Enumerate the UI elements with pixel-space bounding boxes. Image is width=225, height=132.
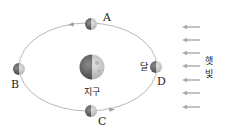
moon-position-d xyxy=(150,61,162,73)
arrow-left-icon xyxy=(182,78,200,82)
moon-position-c xyxy=(85,105,97,117)
arrow-left-icon xyxy=(182,25,200,29)
moon-label: 달 xyxy=(140,61,148,72)
sunlight-label-1: 햇 xyxy=(205,55,213,66)
moon-position-a xyxy=(85,18,97,30)
earth-label: 지구 xyxy=(84,87,100,97)
moon-position-b xyxy=(13,63,25,75)
position-label-c: C xyxy=(98,115,106,128)
arrow-left-icon xyxy=(182,64,200,68)
position-label-a: A xyxy=(102,11,112,24)
arrow-left-icon xyxy=(182,51,200,55)
orbit-arrow-icon xyxy=(68,22,74,27)
sunlight-arrows xyxy=(182,25,200,109)
sunlight-label-2: 빛 xyxy=(205,69,213,79)
position-label-d: D xyxy=(157,75,166,88)
arrow-left-icon xyxy=(182,91,200,95)
earth xyxy=(80,55,105,80)
arrow-left-icon xyxy=(182,105,200,109)
moon-orbit-diagram: 지구 A B C D 달 햇 빛 xyxy=(0,0,225,132)
arrow-left-icon xyxy=(182,38,200,42)
position-label-b: B xyxy=(11,78,19,91)
